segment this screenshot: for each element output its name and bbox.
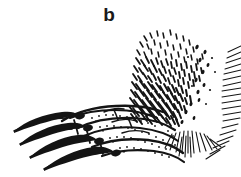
- fur-mass: [129, 30, 216, 126]
- claw-4-lowermost: [44, 147, 114, 171]
- figure-panel: b: [0, 0, 241, 177]
- foot-illustration: [0, 0, 241, 177]
